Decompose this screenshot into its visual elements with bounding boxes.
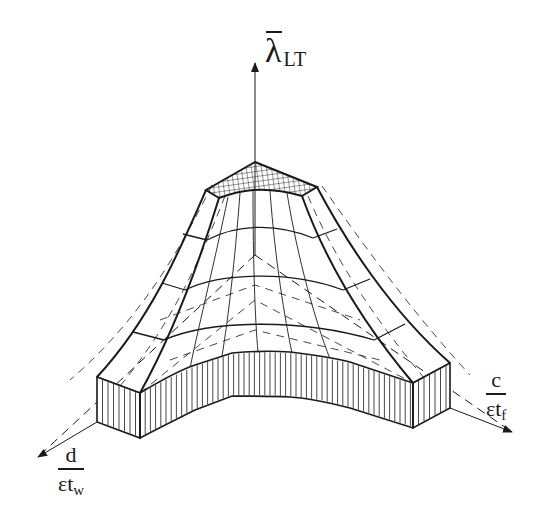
fraction-bar xyxy=(58,468,84,470)
overbar xyxy=(266,31,282,33)
fraction-denominator: εtw xyxy=(58,472,84,502)
right-leg-rib xyxy=(343,279,370,290)
top-cap-face xyxy=(206,162,317,198)
right-end-block xyxy=(413,363,450,428)
left-block-face xyxy=(97,377,140,438)
rib xyxy=(164,324,374,340)
lambda-subscript: LT xyxy=(284,48,307,70)
lambda-symbol: λ xyxy=(265,34,282,68)
fraction-numerator: d xyxy=(66,443,77,467)
vertical-axis-label: λ LT xyxy=(265,34,306,76)
rib xyxy=(207,227,313,240)
left-leg-rib xyxy=(162,283,185,290)
fraction-numerator: c xyxy=(491,368,501,392)
fraction: c εtf xyxy=(486,368,506,427)
right-leg-rib xyxy=(374,324,405,340)
fraction: d εtw xyxy=(58,443,84,502)
right-axis-label: c εtf xyxy=(486,368,506,427)
right-leg xyxy=(302,187,450,383)
fraction-bar xyxy=(486,393,506,395)
left-axis-label: d εtw xyxy=(58,443,84,502)
inner-dash-3 xyxy=(160,285,360,320)
front-wall xyxy=(140,351,413,438)
left-end-block xyxy=(97,377,140,438)
diagram-canvas: λ LT d εtw c εtf xyxy=(0,0,555,523)
left-leg-rib xyxy=(133,332,164,340)
meridian xyxy=(190,197,228,368)
top-cap xyxy=(206,162,317,198)
fraction-denominator: εtf xyxy=(486,397,506,427)
left-leg-rib xyxy=(183,234,207,240)
front-wall-face xyxy=(140,351,413,438)
meridian xyxy=(287,193,330,359)
meridian xyxy=(270,191,292,353)
right-leg-inner-edge xyxy=(302,196,413,383)
meridian xyxy=(222,193,240,356)
right-envelope-outer xyxy=(322,186,470,375)
